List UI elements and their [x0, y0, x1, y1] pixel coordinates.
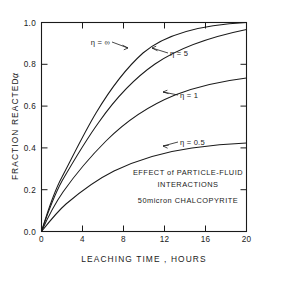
y-tick-label-5: 1.0: [24, 19, 36, 28]
x-tick-label-4: 16: [201, 235, 211, 244]
x-tick-label-5: 20: [242, 235, 252, 244]
y-axis-title-group: FRACTION REACTED, α: [10, 72, 20, 180]
caption-line-1: EFFECT of PARTICLE-FLUID: [133, 168, 243, 177]
x-axis-top-ticks: [83, 23, 206, 29]
chart-figure: 0.0 0.2 0.4 0.6 0.8 1.0 0 4 8 12 16 20 L…: [0, 0, 282, 282]
x-axis-ticks: [42, 226, 247, 232]
curve-eta-1: [42, 78, 247, 232]
y-tick-label-4: 0.8: [24, 60, 36, 69]
y-tick-label-2: 0.4: [24, 144, 36, 153]
annotation-eta-0-5: η = 0.5: [163, 138, 205, 148]
y-tick-label-1: 0.2: [24, 186, 36, 195]
y-tick-label-3: 0.6: [24, 102, 36, 111]
annotation-label-eta-0-5: η = 0.5: [180, 138, 205, 147]
annotation-label-eta-5: η = 5: [170, 49, 188, 58]
y-axis-ticks: [42, 23, 48, 232]
x-tick-label-3: 12: [160, 235, 170, 244]
annotation-eta-5: η = 5: [152, 46, 188, 58]
annotation-label-eta-infinity: η = ∞: [91, 38, 110, 47]
y-tick-label-0: 0.0: [24, 228, 36, 237]
x-tick-label-2: 8: [121, 235, 126, 244]
x-tick-label-1: 4: [80, 235, 85, 244]
caption-line-3: 50micron CHALCOPYRITE: [138, 196, 238, 205]
x-axis-title: LEACHING TIME , HOURS: [81, 254, 206, 264]
x-tick-label-0: 0: [39, 235, 44, 244]
annotation-label-eta-1: η = 1: [180, 91, 198, 100]
annotation-eta-infinity: η = ∞: [91, 38, 128, 50]
y-axis-title-symbol: α: [10, 72, 20, 78]
leaching-kinetics-chart: 0.0 0.2 0.4 0.6 0.8 1.0 0 4 8 12 16 20 L…: [0, 0, 282, 282]
caption-line-2: INTERACTIONS: [157, 180, 218, 189]
annotation-eta-1: η = 1: [163, 90, 198, 100]
caption-block: EFFECT of PARTICLE-FLUID INTERACTIONS 50…: [133, 168, 243, 205]
y-axis-title: FRACTION REACTED,: [10, 74, 20, 180]
